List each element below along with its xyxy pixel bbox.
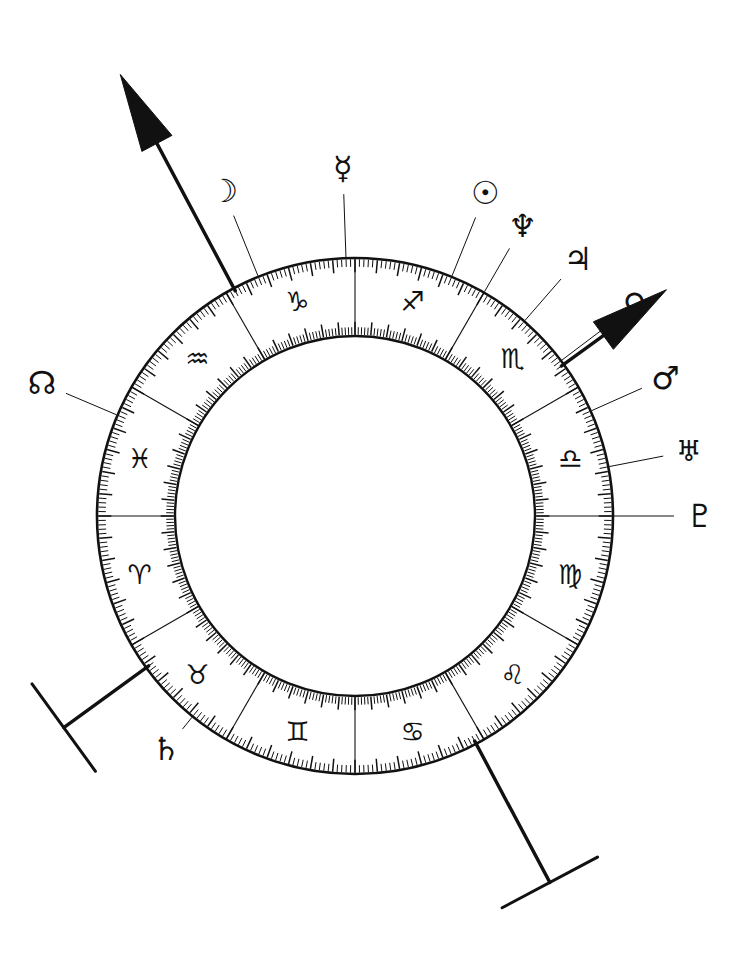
- tick-outer-ring: [120, 617, 127, 620]
- tick-inner-ring: [193, 419, 199, 423]
- tick-inner-ring: [509, 416, 515, 420]
- tick-outer-ring: [518, 322, 523, 328]
- planet-glyph-moon: ☽: [210, 175, 239, 207]
- tick-inner-ring: [258, 671, 262, 677]
- tick-inner-ring: [281, 342, 284, 349]
- inner-circle: [175, 336, 535, 696]
- chart-canvas: ♑♒♓♈♉♊♋♌♍♎♏♐☽☿☉♆♃♀♂♅♇☊♄: [0, 0, 738, 974]
- tick-outer-ring: [385, 763, 386, 770]
- tick-inner-ring: [374, 328, 375, 335]
- tick-inner-ring: [249, 666, 253, 672]
- tick-outer-ring: [137, 380, 143, 384]
- planet-glyph-uranus: ♅: [676, 437, 702, 466]
- tick-outer-ring: [551, 669, 557, 674]
- tick-outer-ring: [385, 261, 386, 268]
- tick-inner-ring: [239, 659, 244, 665]
- tick-inner-ring: [226, 378, 231, 383]
- tick-outer-ring: [452, 280, 455, 287]
- tick-outer-ring: [99, 494, 112, 495]
- tick-outer-ring: [297, 759, 299, 766]
- tick-outer-ring: [293, 267, 295, 274]
- tick-outer-ring: [518, 704, 523, 710]
- tick-inner-ring: [393, 331, 395, 338]
- tick-inner-ring: [297, 688, 299, 695]
- tick-outer-ring: [599, 463, 606, 465]
- tick-inner-ring: [459, 357, 466, 368]
- tick-inner-ring: [368, 697, 369, 704]
- tick-inner-ring: [451, 356, 455, 362]
- sign-boundary-scorpio: [445, 293, 484, 361]
- tick-outer-ring: [394, 262, 395, 269]
- tick-inner-ring: [196, 620, 207, 627]
- tick-outer-ring: [310, 263, 312, 276]
- tick-outer-ring: [259, 747, 262, 754]
- tick-outer-ring: [267, 275, 271, 287]
- tick-outer-ring: [263, 276, 266, 283]
- tick-outer-ring: [586, 609, 593, 612]
- tick-inner-ring: [244, 665, 251, 676]
- tick-outer-ring: [602, 485, 609, 486]
- tick-outer-ring: [577, 629, 584, 632]
- tick-inner-ring: [313, 332, 315, 339]
- tick-outer-ring: [602, 480, 609, 481]
- tick-outer-ring: [566, 380, 572, 384]
- tick-outer-ring: [592, 593, 599, 595]
- tick-inner-ring: [249, 359, 253, 365]
- tick-outer-ring: [142, 655, 148, 659]
- tick-inner-ring: [535, 490, 542, 491]
- tick-outer-ring: [110, 441, 117, 443]
- tick-outer-ring: [537, 341, 542, 346]
- axis-ic-shaft: [475, 741, 550, 882]
- tick-outer-ring: [137, 648, 143, 652]
- tick-outer-ring: [593, 441, 600, 443]
- tick-outer-ring: [569, 384, 575, 388]
- tick-inner-ring: [170, 554, 177, 556]
- tick-inner-ring: [368, 328, 369, 335]
- tick-outer-ring: [150, 666, 156, 671]
- tick-outer-ring: [110, 589, 117, 591]
- tick-inner-ring: [309, 333, 311, 340]
- sign-glyph-libra: ♎: [558, 445, 582, 472]
- sign-glyph-cancer: ♋: [401, 718, 425, 745]
- tick-inner-ring: [206, 391, 216, 399]
- tick-outer-ring: [601, 476, 608, 477]
- sign-boundary-aries: [132, 606, 200, 645]
- tick-outer-ring: [231, 291, 235, 298]
- tick-outer-ring: [180, 328, 185, 333]
- tick-outer-ring: [251, 744, 254, 751]
- tick-outer-ring: [487, 298, 491, 304]
- tick-outer-ring: [99, 537, 112, 538]
- tick-inner-ring: [167, 529, 174, 530]
- tick-inner-ring: [176, 455, 183, 457]
- tick-inner-ring: [183, 439, 190, 442]
- planet-pointer-jupiter: [525, 279, 561, 321]
- tick-outer-ring: [111, 593, 118, 595]
- tick-inner-ring: [429, 344, 432, 351]
- tick-outer-ring: [456, 281, 459, 288]
- tick-inner-ring: [426, 683, 429, 690]
- tick-outer-ring: [124, 403, 131, 406]
- tick-outer-ring: [562, 655, 568, 659]
- tick-inner-ring: [342, 328, 343, 335]
- sign-glyph-taurus: ♉: [185, 660, 209, 687]
- tick-inner-ring: [483, 379, 492, 388]
- tick-outer-ring: [562, 372, 568, 376]
- tick-inner-ring: [188, 601, 195, 605]
- tick-outer-ring: [436, 752, 438, 759]
- tick-outer-ring: [591, 432, 598, 434]
- tick-outer-ring: [140, 652, 146, 656]
- tick-outer-ring: [599, 568, 606, 570]
- tick-inner-ring: [335, 696, 336, 703]
- tick-outer-ring: [289, 751, 292, 764]
- tick-inner-ring: [325, 695, 326, 702]
- tick-outer-ring: [156, 354, 162, 359]
- tick-inner-ring: [181, 442, 188, 445]
- tick-inner-ring: [179, 448, 186, 451]
- tick-outer-ring: [432, 753, 434, 760]
- tick-outer-ring: [491, 301, 495, 307]
- tick-outer-ring: [543, 679, 549, 684]
- planet-glyph-north-node: ☊: [28, 367, 56, 399]
- tick-inner-ring: [218, 379, 227, 388]
- tick-outer-ring: [223, 296, 227, 302]
- tick-inner-ring: [172, 470, 179, 472]
